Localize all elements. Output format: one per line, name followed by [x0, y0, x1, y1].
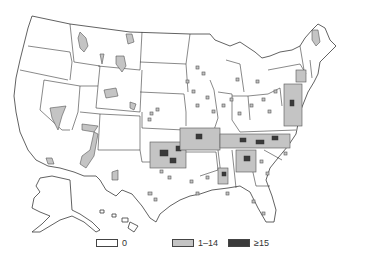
hawaii-outline: [100, 210, 138, 232]
legend-swatch-zero: [96, 239, 118, 247]
alaska-outline: [32, 176, 100, 232]
legend-label-low: 1–14: [198, 238, 218, 248]
legend-label-high: ≥15: [254, 238, 269, 248]
legend-item-low: 1–14: [172, 238, 218, 248]
us-county-map: [0, 0, 367, 260]
legend-swatch-low: [172, 239, 194, 247]
legend-item-high: ≥15: [228, 238, 269, 248]
legend-label-zero: 0: [122, 238, 127, 248]
legend-item-zero: 0: [96, 238, 127, 248]
legend: 0 1–14 ≥15: [0, 238, 367, 256]
legend-swatch-high: [228, 239, 250, 247]
